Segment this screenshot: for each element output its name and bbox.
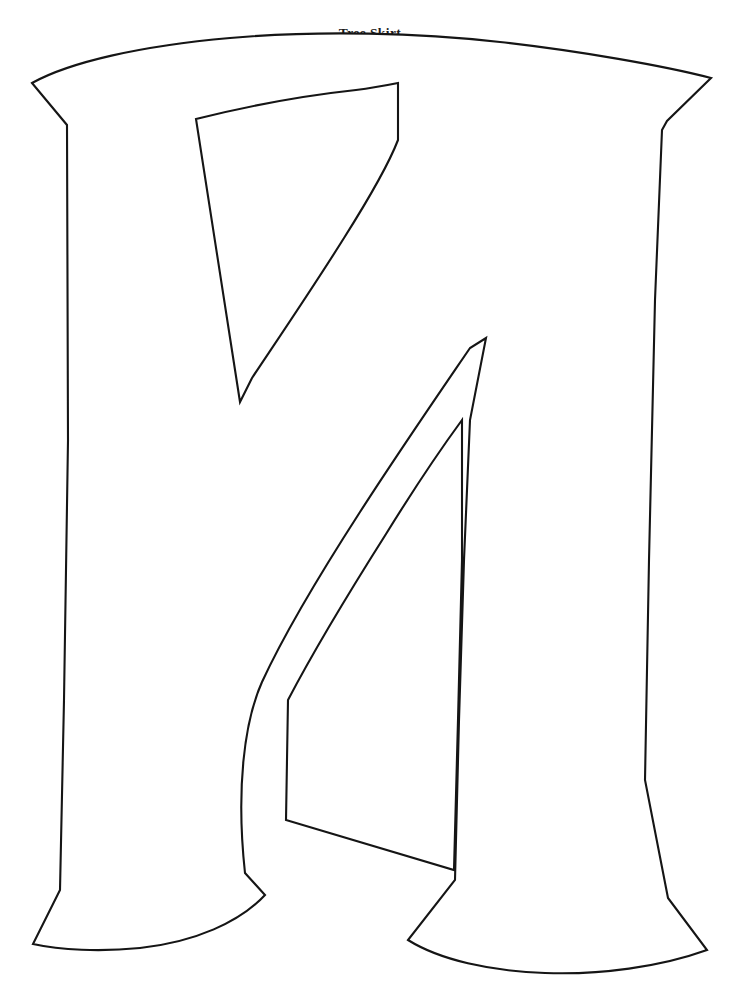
letter-outline-shape xyxy=(32,33,711,973)
letter-template-svg xyxy=(0,0,740,990)
page-canvas: Tree Skirt xyxy=(0,0,740,990)
template-stage xyxy=(0,0,740,990)
